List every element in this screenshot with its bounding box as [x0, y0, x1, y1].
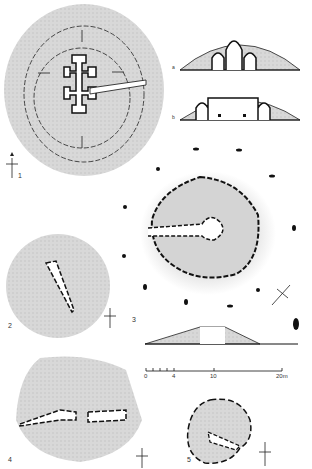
plan-2 — [6, 234, 116, 338]
plan-5 — [188, 399, 271, 466]
plan-label-1: 1 — [18, 172, 22, 179]
long-section — [145, 327, 298, 344]
section-label-a: a — [172, 64, 175, 70]
north-arrow-icon — [10, 152, 14, 156]
plan-3 — [122, 148, 299, 331]
plan-label-2: 2 — [8, 322, 12, 329]
archaeological-plates — [0, 0, 312, 469]
scale-bar — [146, 368, 282, 371]
section-label-b: b — [172, 114, 175, 120]
scale-tick-10: 10 — [210, 373, 217, 379]
scale-tick-0: 0 — [144, 373, 147, 379]
scale-tick-4: 4 — [172, 373, 175, 379]
plan-label-3: 3 — [132, 316, 136, 323]
sections — [180, 41, 300, 120]
plan-label-5: 5 — [187, 456, 191, 463]
plan-1 — [4, 4, 164, 178]
plan-4 — [16, 357, 148, 469]
plan-label-4: 4 — [8, 456, 12, 463]
scale-tick-20m: 20m — [276, 373, 288, 379]
